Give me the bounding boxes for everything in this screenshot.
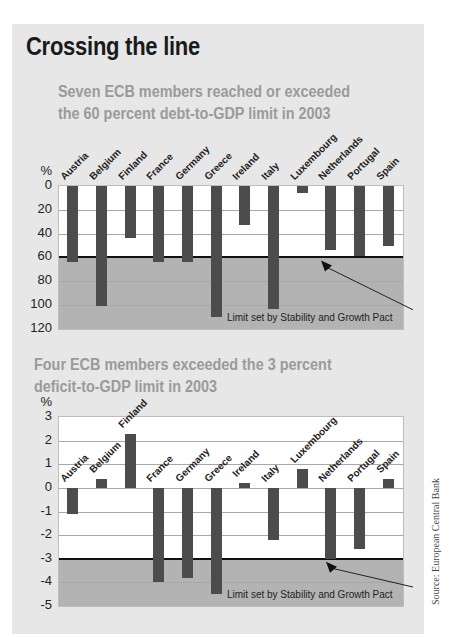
chart2-arrow-icon [0, 0, 458, 637]
